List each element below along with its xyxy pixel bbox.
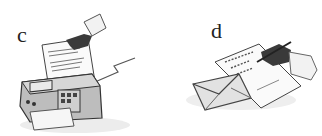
panel-d: d (161, 0, 322, 136)
letter-writing-icon (161, 0, 322, 136)
panel-c: c (0, 0, 161, 136)
fax-machine-icon (0, 0, 161, 136)
